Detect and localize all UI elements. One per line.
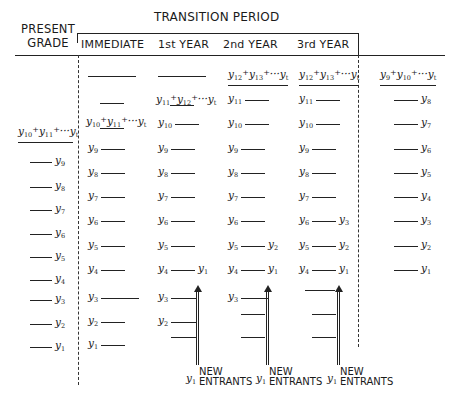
year2-item-line (245, 124, 269, 125)
year1-item: y10 (158, 116, 199, 132)
immediate-item-label: y2 (88, 314, 98, 330)
year1-new-entrants-symbol: y1 (186, 372, 196, 388)
final-item: y6 (394, 141, 431, 157)
year1-item-line (171, 270, 195, 271)
final-item-result-label: y7 (421, 116, 431, 132)
transition-end-divider (358, 55, 359, 347)
immediate-item-label: y7 (88, 189, 98, 205)
immediate-item-label: y1 (88, 337, 98, 353)
year2-item: y6 (228, 213, 265, 229)
year2-sum-label: y12+y13+···yt (228, 67, 288, 86)
year1-item-line (175, 124, 199, 125)
year1-item-line (171, 246, 195, 247)
immediate-item-line (101, 345, 125, 346)
year2-item: y11 (228, 92, 269, 108)
year2-item: y7 (228, 189, 265, 205)
year1-item-line (171, 298, 197, 299)
immediate-item-label: y8 (88, 165, 98, 181)
header-rule (15, 55, 445, 56)
year1-item-line (171, 197, 195, 198)
year1-item-label: y8 (158, 165, 168, 181)
year3-item: y8 (299, 165, 336, 181)
final-item: y2 (394, 238, 431, 254)
final-item: y1 (394, 262, 431, 278)
immediate-item: y9 (88, 141, 125, 157)
year1-item (171, 337, 197, 338)
final-item: y8 (394, 92, 431, 108)
present-grade-item: y9 (30, 154, 65, 170)
year2-item-label: y5 (228, 238, 238, 254)
year1-item-label: y7 (158, 189, 168, 205)
year2-item-result-label: y1 (268, 262, 278, 278)
year2-item: y9 (228, 141, 265, 157)
present-grade-item-line (30, 300, 52, 301)
immediate-blank-line (88, 76, 136, 77)
year3-item-label: y9 (299, 141, 309, 157)
immediate-item: y8 (88, 165, 125, 181)
final-item-result-label: y2 (421, 238, 431, 254)
year3-item-line (316, 100, 340, 101)
immediate-item: y6 (88, 213, 125, 229)
present-grade-item-result-label: y6 (55, 226, 65, 242)
final-item-result-label: y4 (421, 189, 431, 205)
present-grade-item: y4 (30, 272, 65, 288)
immediate-item: y5 (88, 238, 125, 254)
year2-item-line (241, 314, 265, 315)
year3-item: y11 (299, 92, 340, 108)
year2-item-label: y4 (228, 262, 238, 278)
year1-item: y2 (158, 314, 197, 330)
final-item-line (394, 100, 418, 101)
transition-bracket-right (358, 33, 359, 55)
present-grade-item: y6 (30, 226, 65, 242)
year1-item-result-label: y1 (198, 262, 208, 278)
year3-item-line (312, 314, 336, 315)
year3-item-line (312, 221, 336, 222)
year3-item-result-label: y1 (339, 262, 349, 278)
year1-blank-line (158, 76, 206, 77)
immediate-item: y2 (88, 314, 125, 330)
year3-item: y9 (299, 141, 336, 157)
year2-new-entrants-symbol: y1 (256, 372, 266, 388)
immediate-item: y4 (88, 262, 125, 278)
present-grade-item-line (30, 324, 52, 325)
year1-item: y5 (158, 238, 195, 254)
year3-item: y6y3 (299, 213, 349, 229)
present-grade-item-result-label: y8 (55, 179, 65, 195)
year1-item-line (171, 322, 197, 323)
year3-item-result-label: y3 (339, 213, 349, 229)
immediate-item: y7 (88, 189, 125, 205)
year2-item-label: y9 (228, 141, 238, 157)
final-item-result-label: y3 (421, 213, 431, 229)
year2-item-line (241, 246, 265, 247)
year2-item (241, 314, 265, 315)
year1-item-line (171, 173, 195, 174)
year3-item-line (312, 270, 336, 271)
year2-item: y3 (228, 290, 269, 306)
year1-arrow-head-icon (194, 285, 202, 292)
year1-item: y6 (158, 213, 195, 229)
year2-arrow-head-icon (264, 285, 272, 292)
immediate-item-line (101, 197, 125, 198)
year3-new-entrants-symbol: y1 (327, 372, 337, 388)
immediate-item-line (101, 270, 125, 271)
year1-item-label: y9 (158, 141, 168, 157)
final-item-line (394, 221, 418, 222)
final-item: y7 (394, 116, 431, 132)
year2-item-label: y8 (228, 165, 238, 181)
present-grade-item-line (30, 347, 52, 348)
year2-item (241, 337, 265, 338)
final-item-line (394, 270, 418, 271)
year2-item-label: y3 (228, 290, 238, 306)
year3-item-line (312, 197, 336, 198)
year2-item-label: y11 (228, 92, 242, 108)
year2-item-line (241, 149, 265, 150)
year2-item-line (241, 173, 265, 174)
final-item: y4 (394, 189, 431, 205)
present-sum-label: y10+y11+···yt (18, 124, 73, 143)
final-item-line (394, 173, 418, 174)
year2-item-line (241, 270, 265, 271)
year3-item-line (312, 173, 336, 174)
year3-new-entrants-arrow (337, 291, 340, 365)
year3-arrow-head-icon (335, 285, 343, 292)
final-item-result-label: y8 (421, 92, 431, 108)
